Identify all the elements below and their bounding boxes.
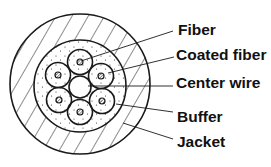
- labels: Fiber Coated fiber Center wire Buffer Ja…: [176, 21, 266, 150]
- label-jacket: Jacket: [177, 133, 225, 150]
- label-buffer: Buffer: [177, 108, 223, 125]
- label-fiber: Fiber: [178, 21, 216, 38]
- label-coated-fiber: Coated fiber: [176, 46, 266, 63]
- label-center-wire: Center wire: [176, 74, 261, 91]
- center-wire: [69, 76, 91, 98]
- cable-cross-section-diagram: Fiber Coated fiber Center wire Buffer Ja…: [0, 0, 271, 167]
